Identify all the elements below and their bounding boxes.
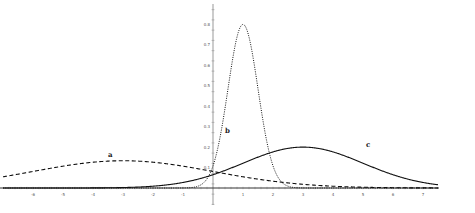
curves <box>3 24 438 188</box>
y-tick-label: 0.6 <box>204 63 211 68</box>
curve-label-b: b <box>225 126 230 135</box>
x-tick-label: -4 <box>91 192 95 197</box>
y-tick-label: 0.3 <box>204 124 211 129</box>
x-tick-label: 6 <box>392 192 395 197</box>
y-tick-label: 0.5 <box>204 83 211 88</box>
x-tick-label: -3 <box>121 192 125 197</box>
curve-label-a: a <box>108 150 113 159</box>
curve-a-dashed <box>3 161 438 188</box>
x-tick-label: 1 <box>242 192 245 197</box>
x-tick-label: 2 <box>272 192 275 197</box>
y-tick-label: 0.8 <box>204 22 211 27</box>
curve-c-solid <box>3 147 438 188</box>
x-tick-label: -1 <box>181 192 185 197</box>
x-tick-label: -6 <box>31 192 35 197</box>
y-tick-label: 0.4 <box>204 104 211 109</box>
x-tick-label: 3 <box>302 192 305 197</box>
curve-label-c: c <box>366 140 370 149</box>
x-tick-label: 4 <box>332 192 335 197</box>
y-tick-label: 0.7 <box>204 42 211 47</box>
y-tick-label: 0.2 <box>204 145 211 150</box>
x-tick-label: 7 <box>422 192 425 197</box>
x-tick-label: -5 <box>61 192 65 197</box>
x-tick-label: -2 <box>151 192 155 197</box>
curve-b-dotted <box>3 24 438 188</box>
y-tick-label: 0.1 <box>204 165 211 170</box>
x-tick-label: 5 <box>362 192 365 197</box>
axes: -6-5-4-3-2-11234567 0.10.20.30.40.50.60.… <box>0 4 439 205</box>
normal-distribution-chart: -6-5-4-3-2-11234567 0.10.20.30.40.50.60.… <box>0 0 475 213</box>
